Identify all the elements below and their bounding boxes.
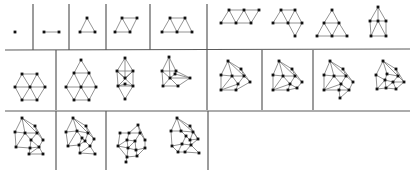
graph-vertex [333, 75, 336, 78]
graph-vertex [94, 31, 97, 34]
graph-hexagon-with-apex [65, 59, 98, 102]
graph-vertex [228, 9, 231, 12]
graph-edge [181, 131, 193, 132]
graph-single-edge [43, 31, 61, 34]
graph-vertex [197, 138, 200, 141]
graph-vertex [73, 72, 76, 75]
graph-edge [162, 57, 169, 71]
graph-vertex [73, 99, 76, 102]
graph-vertex [86, 17, 89, 20]
graph-edge [324, 61, 330, 75]
graph-vertex [323, 74, 326, 77]
graph-vertex [88, 72, 91, 75]
graph-edge [87, 18, 95, 32]
graph-vertex [403, 81, 406, 84]
graph-vertex [14, 131, 17, 134]
graph-vertex [385, 35, 388, 38]
graph-dense-10 [272, 60, 304, 92]
graph-edge [324, 10, 332, 23]
graph-three-triangles [161, 17, 194, 34]
graph-edge [118, 86, 125, 99]
graph-vertex [287, 89, 290, 92]
graph-vertex [296, 87, 299, 90]
graph-vertex [76, 130, 79, 133]
graph-edge [170, 18, 177, 32]
graph-edge [172, 144, 182, 146]
graph-edge [30, 74, 37, 87]
graph-vertex [345, 75, 348, 78]
graph-edge [178, 78, 190, 86]
graph-vertex [346, 35, 349, 38]
graph-vertex [198, 152, 201, 155]
graph-vertex [38, 146, 41, 149]
graph-edge [66, 131, 77, 132]
graph-vertex [136, 155, 139, 158]
graph-vertex [243, 75, 246, 78]
graph-vertex [331, 9, 334, 12]
graph-edge [251, 10, 259, 23]
graph-edge [324, 23, 332, 36]
graph-edge [386, 88, 396, 89]
graph-edge [295, 23, 302, 36]
graph-edge [273, 61, 279, 75]
graph-vertex [289, 83, 292, 86]
graph-vertex [294, 9, 297, 12]
graph-dense-13 [65, 117, 97, 156]
graph-vertex [169, 77, 172, 80]
graph-vertex [376, 88, 379, 91]
graph-vertex [382, 60, 385, 63]
graph-vertex [249, 81, 252, 84]
graph-vertex [24, 132, 27, 135]
graph-edge [30, 87, 37, 100]
graph-vertex [29, 86, 32, 89]
graph-edge [122, 18, 130, 32]
graph-edge [376, 75, 377, 89]
graph-vertex [30, 139, 33, 142]
graph-vertex [21, 73, 24, 76]
graph-vertex [93, 138, 96, 141]
graph-vertex [134, 140, 137, 143]
graph-edge [162, 71, 163, 86]
graph-edge [185, 18, 192, 32]
graph-edge [185, 152, 199, 153]
graph-dense-14b [170, 117, 201, 155]
graph-vertex [36, 73, 39, 76]
graph-edge [378, 7, 386, 21]
graph-large-triangle [316, 9, 349, 38]
graph-edge [127, 156, 137, 157]
graph-vertex [135, 149, 138, 152]
graph-house [369, 6, 388, 38]
graph-edge [281, 10, 288, 23]
graph-vertex [65, 131, 68, 134]
graph-vertex [94, 153, 97, 156]
graph-edge [22, 74, 30, 87]
graph-edge [74, 60, 81, 73]
graph-vertex [121, 17, 124, 20]
graph-vertex [95, 86, 98, 89]
graph-vertex [323, 22, 326, 25]
graph-edge [66, 132, 68, 146]
graph-edge [68, 145, 79, 146]
graph-vertex [124, 83, 127, 86]
graph-edge [80, 18, 87, 32]
graph-vertex [395, 68, 398, 71]
graph-vertex [243, 9, 246, 12]
graph-edge [118, 133, 120, 146]
graph-vertex [220, 74, 223, 77]
graph-vertex [220, 89, 223, 92]
graph-vertex [331, 35, 334, 38]
graph-vertex [294, 75, 297, 78]
graph-edge [288, 23, 295, 36]
graph-vertex [301, 81, 304, 84]
graph-vertex [36, 99, 39, 102]
graph-vertex [42, 139, 45, 142]
graph-vertex [168, 56, 171, 59]
graph-edge [117, 71, 118, 86]
graph-vertex [220, 22, 223, 25]
graph-vertex [191, 31, 194, 34]
graph-vertex [119, 132, 122, 135]
graph-vertex [174, 73, 177, 76]
graph-vertex [377, 6, 380, 9]
graph-vertex [170, 130, 173, 133]
graph-vertex [89, 145, 92, 148]
